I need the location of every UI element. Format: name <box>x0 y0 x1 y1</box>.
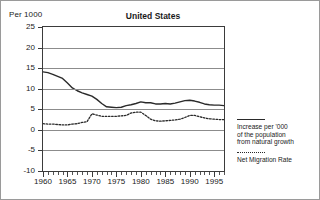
gridline <box>43 130 224 131</box>
x-axis-minor-tick <box>111 172 112 175</box>
x-axis: 19601965197019751980198519901995 <box>42 172 225 194</box>
x-axis-minor-tick <box>107 172 108 175</box>
y-axis-tick-label: -5 <box>9 146 35 154</box>
y-axis-tick-label: 20 <box>9 44 35 52</box>
x-axis-minor-tick <box>48 172 49 175</box>
chart-title: United States <box>93 11 213 21</box>
y-axis-tick-label: 0 <box>9 126 35 134</box>
y-axis-tick-label: 5 <box>9 105 35 113</box>
x-axis-minor-tick <box>146 172 147 175</box>
x-axis-minor-tick <box>131 172 132 175</box>
legend-entry-natural-growth: Increase per '000 of the population from… <box>237 119 315 146</box>
x-axis-minor-tick <box>151 172 152 175</box>
x-axis-minor-tick <box>136 172 137 175</box>
chart-legend: Increase per '000 of the population from… <box>237 119 315 169</box>
x-axis-minor-tick <box>204 172 205 175</box>
x-axis-minor-tick <box>87 172 88 175</box>
x-axis-minor-tick <box>97 172 98 175</box>
chart-figure: Per 1000 United States 2520151050-5-10 1… <box>0 0 320 200</box>
x-axis-minor-tick <box>170 172 171 175</box>
gridline <box>43 150 224 151</box>
x-axis-minor-tick <box>77 172 78 175</box>
x-axis-minor-tick <box>175 172 176 175</box>
x-axis-minor-tick <box>53 172 54 175</box>
x-axis-minor-tick <box>219 172 220 175</box>
x-axis-minor-tick <box>72 172 73 175</box>
series-natural-growth-line <box>43 72 224 108</box>
x-axis-minor-tick <box>180 172 181 175</box>
x-axis-minor-tick <box>195 172 196 175</box>
plot-area <box>42 26 225 172</box>
x-axis-minor-tick <box>126 172 127 175</box>
x-axis-minor-tick <box>185 172 186 175</box>
solid-line-swatch-icon <box>237 119 265 120</box>
x-axis-minor-tick <box>200 172 201 175</box>
gridline <box>43 68 224 69</box>
y-axis-tick-label: 10 <box>9 85 35 93</box>
x-axis-minor-tick <box>160 172 161 175</box>
legend-label-natural-growth: Increase per '000 of the population from… <box>237 123 315 146</box>
legend-entry-net-migration: Net Migration Rate <box>237 152 315 164</box>
x-axis-minor-tick <box>63 172 64 175</box>
y-axis-tick-label: 15 <box>9 64 35 72</box>
dotted-line-swatch-icon <box>237 152 265 153</box>
series-net-migration-line <box>43 112 224 125</box>
gridline <box>43 109 224 110</box>
x-axis-minor-tick <box>224 172 225 175</box>
x-axis-minor-tick <box>121 172 122 175</box>
x-axis-minor-tick <box>58 172 59 175</box>
x-axis-minor-tick <box>209 172 210 175</box>
gridline <box>43 89 224 90</box>
x-axis-minor-tick <box>82 172 83 175</box>
legend-label-net-migration: Net Migration Rate <box>237 156 315 164</box>
x-axis-tick-label: 1995 <box>199 178 229 186</box>
x-axis-minor-tick <box>156 172 157 175</box>
x-axis-minor-tick <box>102 172 103 175</box>
series-lines <box>43 27 224 171</box>
gridline <box>43 48 224 49</box>
y-axis-tick-label: 25 <box>9 23 35 31</box>
y-axis-label: Per 1000 <box>9 10 42 19</box>
y-axis-tick-label: -10 <box>9 167 35 175</box>
